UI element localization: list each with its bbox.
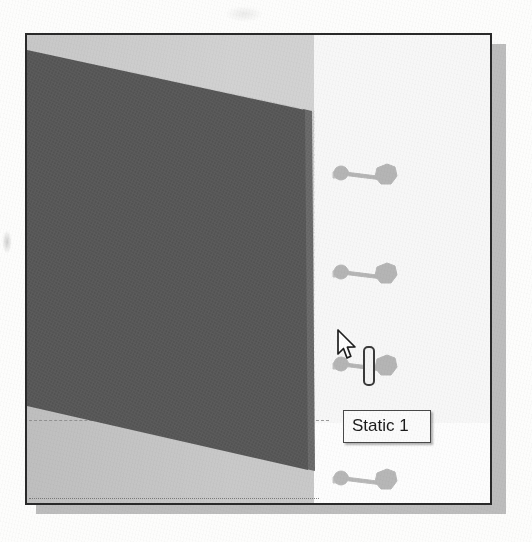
fixture-restraint-arrow-2[interactable] — [329, 253, 407, 297]
label-marker-icon — [363, 346, 375, 386]
construction-line-mid — [29, 420, 329, 421]
tooltip-label: Static 1 — [352, 416, 409, 435]
screenshot-root: Static 1 — [0, 0, 532, 542]
study-tooltip: Static 1 — [343, 410, 431, 443]
scan-smudge-top — [225, 6, 263, 22]
scan-smudge-left — [2, 230, 12, 254]
cad-viewport[interactable]: Static 1 — [25, 33, 492, 505]
construction-line-low — [29, 498, 319, 499]
fixture-restraint-arrow-1[interactable] — [329, 154, 407, 198]
arrow-pointer-icon — [336, 329, 360, 363]
fixture-restraint-arrow-4[interactable] — [329, 459, 407, 503]
